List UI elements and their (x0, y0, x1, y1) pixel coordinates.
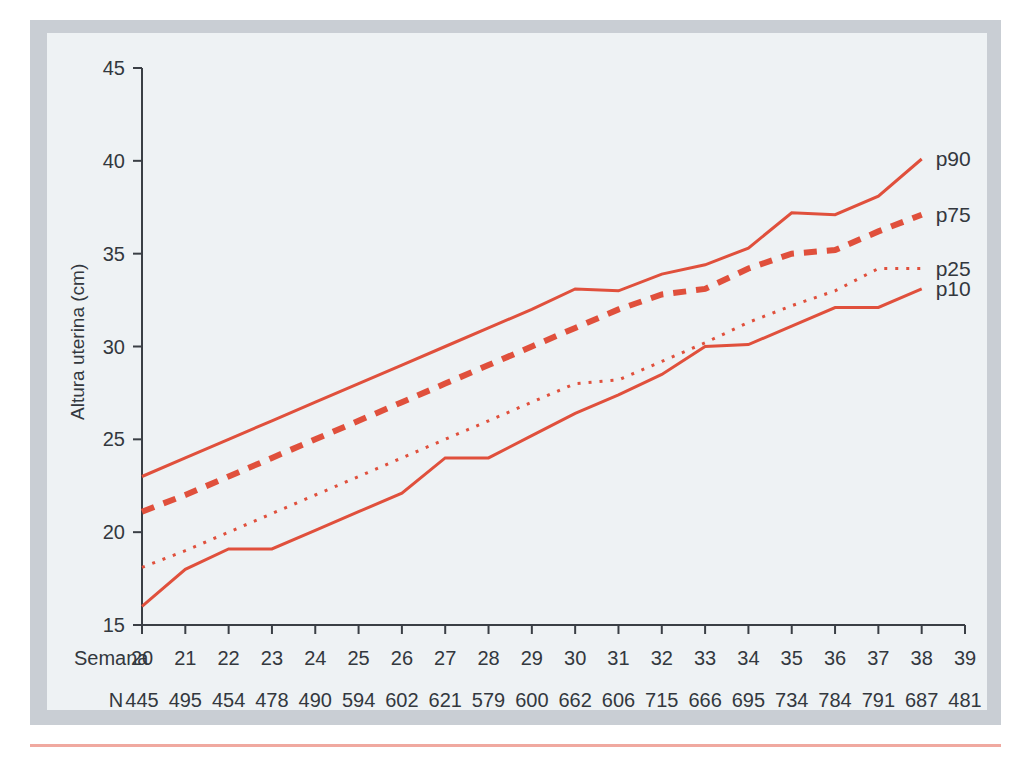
n-value: 490 (299, 689, 332, 711)
x-tick-label: 26 (391, 647, 413, 669)
series-label-p75: p75 (936, 203, 971, 226)
series-line-p75 (142, 215, 922, 512)
x-axis-labels: 2044521495224542347824490255942660227621… (125, 647, 981, 711)
y-axis-label: Altura uterina (cm) (67, 264, 88, 420)
x-tick-label: 21 (174, 647, 196, 669)
series-legend: p90p75p25p10 (936, 147, 971, 300)
x-tick-label: 24 (304, 647, 326, 669)
n-value: 606 (602, 689, 635, 711)
x-tick-label: 25 (347, 647, 369, 669)
x-tick-label: 36 (824, 647, 846, 669)
figure-container: Altura uterina (cm) 15202530354045 p90p7… (0, 0, 1031, 773)
n-value: 594 (342, 689, 375, 711)
series-label-p10: p10 (936, 277, 971, 300)
n-value: 445 (125, 689, 158, 711)
y-tick-label: 45 (103, 57, 125, 79)
n-value: 621 (429, 689, 462, 711)
y-tick-label: 20 (103, 521, 125, 543)
x-tick-label: 23 (261, 647, 283, 669)
n-row-label: N (109, 689, 123, 711)
x-tick-label: 28 (477, 647, 499, 669)
n-value: 481 (948, 689, 981, 711)
x-tick-label: 38 (911, 647, 933, 669)
x-tick-label: 31 (607, 647, 629, 669)
x-tick-label: 29 (521, 647, 543, 669)
n-value: 687 (905, 689, 938, 711)
n-value: 734 (775, 689, 808, 711)
series-label-p90: p90 (936, 147, 971, 170)
n-value: 666 (688, 689, 721, 711)
growth-chart: Altura uterina (cm) 15202530354045 p90p7… (0, 0, 1031, 773)
n-value: 495 (169, 689, 202, 711)
y-tick-label: 30 (103, 336, 125, 358)
x-tick-label: 35 (781, 647, 803, 669)
n-value: 478 (255, 689, 288, 711)
x-tick-label: 39 (954, 647, 976, 669)
n-value: 791 (862, 689, 895, 711)
n-value: 715 (645, 689, 678, 711)
n-value: 600 (515, 689, 548, 711)
series-line-p90 (142, 159, 922, 477)
y-tick-label: 35 (103, 243, 125, 265)
series-line-p10 (142, 289, 922, 607)
series-group (142, 159, 922, 606)
x-tick-label: 37 (867, 647, 889, 669)
y-tick-label: 40 (103, 150, 125, 172)
n-value: 662 (558, 689, 591, 711)
n-value: 602 (385, 689, 418, 711)
x-tick-label: 27 (434, 647, 456, 669)
n-value: 579 (472, 689, 505, 711)
semana-row-label: Semana (74, 647, 149, 669)
x-tick-label: 33 (694, 647, 716, 669)
x-tick-label: 32 (651, 647, 673, 669)
x-tick-label: 22 (218, 647, 240, 669)
y-tick-label: 15 (103, 614, 125, 636)
series-line-p25 (142, 269, 922, 568)
y-tick-label: 25 (103, 428, 125, 450)
n-value: 454 (212, 689, 245, 711)
x-tick-label: 30 (564, 647, 586, 669)
x-tick-label: 34 (737, 647, 759, 669)
n-value: 784 (818, 689, 851, 711)
n-value: 695 (732, 689, 765, 711)
